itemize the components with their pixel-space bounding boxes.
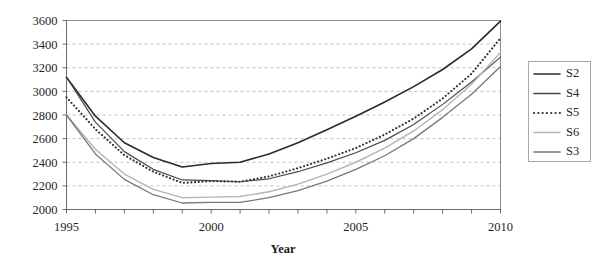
- line-chart: 200022002400260028003000320034003600 199…: [0, 0, 607, 277]
- y-axis-tick-label: 2400: [33, 156, 58, 170]
- y-axis-labels-group: 200022002400260028003000320034003600: [33, 14, 58, 217]
- legend-label-s2: S2: [566, 66, 579, 80]
- x-axis-tick-label: 2005: [343, 220, 368, 234]
- y-axis-tick-label: 2200: [33, 179, 58, 193]
- y-axis-tick-label: 3000: [33, 85, 58, 99]
- x-axis-tick-label: 2010: [488, 220, 513, 234]
- series-line-s4: [67, 57, 501, 182]
- data-series-group: [67, 21, 501, 203]
- series-line-s3: [67, 67, 501, 203]
- x-axis-title: Year: [271, 242, 296, 256]
- series-line-s2: [67, 21, 501, 167]
- x-axis-labels-group: 1995200020052010: [54, 220, 513, 234]
- x-axis-ticks-group: [67, 210, 501, 214]
- x-axis-tick-label: 1995: [54, 220, 79, 234]
- y-axis-tick-label: 2600: [33, 132, 58, 146]
- y-axis-tick-label: 2800: [33, 109, 58, 123]
- y-axis-tick-label: 3400: [33, 38, 58, 52]
- x-axis-tick-label: 2000: [199, 220, 224, 234]
- chart-canvas: 200022002400260028003000320034003600 199…: [0, 0, 607, 277]
- legend-box: [529, 62, 591, 162]
- series-line-s5: [67, 38, 501, 183]
- legend-label-s4: S4: [566, 86, 580, 100]
- legend-label-s3: S3: [566, 144, 579, 158]
- legend-label-s5: S5: [566, 105, 579, 119]
- legend-label-s6: S6: [566, 125, 579, 139]
- y-axis-tick-label: 3600: [33, 14, 58, 28]
- y-axis-tick-label: 2000: [33, 203, 58, 217]
- y-axis-tick-label: 3200: [33, 61, 58, 75]
- gridlines-group: [67, 21, 501, 186]
